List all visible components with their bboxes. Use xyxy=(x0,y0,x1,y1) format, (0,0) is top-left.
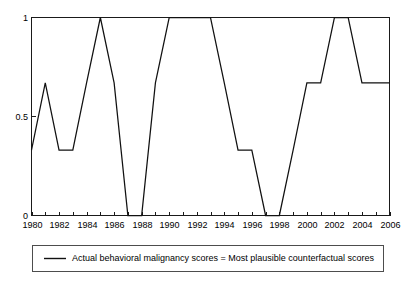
y-axis-labels: 1 0.5 0 xyxy=(15,13,28,221)
y-axis-ticks xyxy=(32,18,36,216)
x-axis-ticks xyxy=(33,212,391,216)
y-tick-label-1: 1 xyxy=(23,13,28,23)
x-tick-label-1986: 1986 xyxy=(104,220,124,230)
x-tick-label-1994: 1994 xyxy=(214,220,234,230)
x-tick-label-1998: 1998 xyxy=(269,220,289,230)
x-tick-label-1980: 1980 xyxy=(22,220,42,230)
y-tick-label-0-5: 0.5 xyxy=(15,112,28,122)
x-tick-label-1996: 1996 xyxy=(242,220,262,230)
x-tick-label-2002: 2002 xyxy=(324,220,344,230)
chart-figure: 1 0.5 0 19801982198419861988199019921994… xyxy=(0,0,406,284)
data-series-group xyxy=(32,18,390,216)
legend-label-0: Actual behavioral malignancy scores = Mo… xyxy=(72,253,374,263)
plot-frame xyxy=(32,18,390,216)
x-tick-label-2004: 2004 xyxy=(352,220,372,230)
x-tick-label-1988: 1988 xyxy=(132,220,152,230)
data-series-actual-behavioral-malignancy-scores xyxy=(32,18,390,216)
x-tick-label-1984: 1984 xyxy=(77,220,97,230)
x-tick-label-2000: 2000 xyxy=(297,220,317,230)
x-tick-label-1990: 1990 xyxy=(159,220,179,230)
line-chart: 1 0.5 0 19801982198419861988199019921994… xyxy=(0,0,406,284)
x-tick-label-1982: 1982 xyxy=(49,220,69,230)
x-axis-labels: 1980198219841986198819901992199419961998… xyxy=(22,220,400,230)
x-tick-label-2006: 2006 xyxy=(380,220,400,230)
chart-legend: Actual behavioral malignancy scores = Mo… xyxy=(33,246,384,272)
x-tick-label-1992: 1992 xyxy=(187,220,207,230)
